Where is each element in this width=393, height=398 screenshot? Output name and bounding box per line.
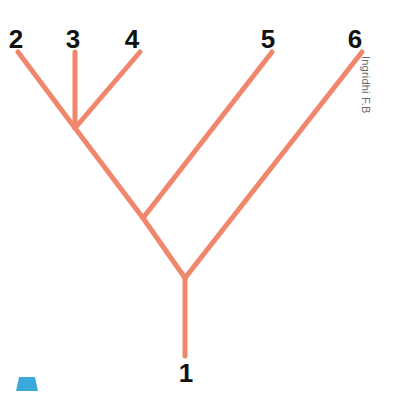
branch-taxon-6 bbox=[185, 52, 362, 278]
watermark-text: Ingridhi F.B bbox=[360, 56, 372, 156]
taxon-label-4: 4 bbox=[117, 26, 147, 52]
cladogram-figure: 2 3 4 5 6 1 Ingridhi F.B bbox=[0, 0, 393, 398]
branch-taxon-4 bbox=[75, 52, 140, 128]
cladogram-branches bbox=[0, 0, 393, 398]
branch-taxon-2 bbox=[18, 52, 75, 128]
branch-node-234-to-node-2345 bbox=[75, 128, 143, 218]
branch-node-2345-to-root bbox=[143, 218, 185, 278]
blue-trapezoid-mark-icon bbox=[16, 377, 38, 391]
taxon-label-3: 3 bbox=[58, 26, 88, 52]
taxon-label-5: 5 bbox=[253, 26, 283, 52]
taxon-label-2: 2 bbox=[1, 26, 31, 52]
taxon-label-6: 6 bbox=[340, 26, 370, 52]
taxon-label-1: 1 bbox=[171, 360, 201, 386]
